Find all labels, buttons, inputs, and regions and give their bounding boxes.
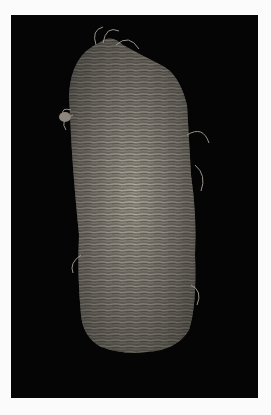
knot (59, 112, 71, 122)
woven-sandal-illustration (11, 15, 258, 398)
sandal-photo (11, 15, 258, 398)
